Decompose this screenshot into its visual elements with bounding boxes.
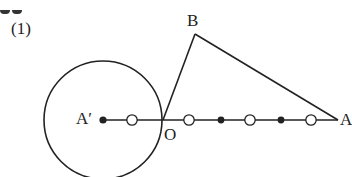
equal-length-filled-dot-mark (278, 117, 285, 124)
equal-length-open-circle-mark (245, 115, 255, 125)
equal-length-filled-dot-mark (218, 117, 225, 124)
segment-b-a (195, 34, 338, 120)
segment-o-b (163, 34, 195, 120)
center-point-dot (99, 116, 106, 123)
equal-length-open-circle-mark (306, 115, 316, 125)
point-label-a: A (340, 111, 352, 128)
point-label-o: O (164, 126, 176, 143)
equal-length-open-circle-mark (127, 115, 137, 125)
point-label-a-prime: A′ (76, 110, 92, 127)
equal-length-open-circle-mark (184, 115, 194, 125)
point-label-b: B (187, 12, 198, 29)
